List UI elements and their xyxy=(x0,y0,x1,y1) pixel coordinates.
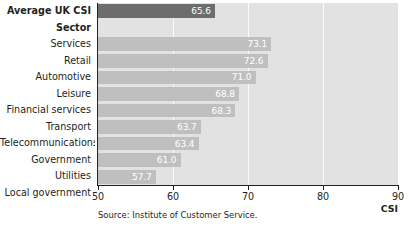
bar[interactable]: 63.4 xyxy=(98,137,199,151)
category-axis: Average UK CSISectorServicesRetailAutomo… xyxy=(0,3,95,185)
bar-row: 71.0 xyxy=(98,69,398,86)
source-note: Source: Institute of Customer Service. xyxy=(98,210,257,220)
category-label: Services xyxy=(0,36,95,53)
bar[interactable]: 57.7 xyxy=(98,170,156,184)
category-label: Retail xyxy=(0,53,95,70)
bar[interactable]: 68.8 xyxy=(98,87,239,101)
x-tick-mark xyxy=(98,186,99,190)
bar[interactable]: 61.0 xyxy=(98,153,181,167)
category-label: Leisure xyxy=(0,86,95,103)
x-tick-label: 70 xyxy=(242,191,254,202)
bar-row: 65.6 xyxy=(98,3,398,20)
bar-row: 68.8 xyxy=(98,86,398,103)
bar-value-label: 73.1 xyxy=(248,39,268,49)
bar-chart-figure: Average UK CSISectorServicesRetailAutomo… xyxy=(0,0,409,227)
bar-value-label: 65.6 xyxy=(191,6,211,16)
bar-value-label: 61.0 xyxy=(157,155,177,165)
x-tick-mark xyxy=(173,186,174,190)
x-tick-label: 50 xyxy=(92,191,104,202)
bar[interactable]: 73.1 xyxy=(98,37,271,51)
category-label: Local government xyxy=(0,185,95,202)
x-tick-label: 80 xyxy=(317,191,329,202)
bar-row: 61.0 xyxy=(98,152,398,169)
bar-row: 63.4 xyxy=(98,135,398,152)
x-tick-label: 60 xyxy=(167,191,179,202)
category-group-header: Sector xyxy=(0,20,95,37)
bar-value-label: 71.0 xyxy=(232,72,252,82)
category-label: Utilities xyxy=(0,168,95,185)
bar-row: 73.1 xyxy=(98,36,398,53)
category-label: Telecommunications xyxy=(0,135,95,152)
bar-value-label: 57.7 xyxy=(132,172,152,182)
x-tick-mark xyxy=(248,186,249,190)
bar-value-label: 68.3 xyxy=(212,106,232,116)
bar-row: 72.6 xyxy=(98,53,398,70)
bar-value-label: 72.6 xyxy=(244,56,264,66)
category-label: Automotive xyxy=(0,69,95,86)
bar-value-label: 63.7 xyxy=(177,122,197,132)
x-tick-mark xyxy=(398,186,399,190)
y-axis-line xyxy=(97,3,98,186)
bar-highlight[interactable]: 65.6 xyxy=(98,4,215,18)
bar[interactable]: 63.7 xyxy=(98,120,201,134)
x-axis-title: CSI xyxy=(381,203,398,214)
category-label: Transport xyxy=(0,119,95,136)
x-tick-label: 90 xyxy=(392,191,404,202)
bar-value-label: 63.4 xyxy=(175,139,195,149)
category-label: Average UK CSI xyxy=(0,3,95,20)
bar[interactable]: 68.3 xyxy=(98,104,235,118)
bar-row: 57.7 xyxy=(98,168,398,185)
bar-row: 63.7 xyxy=(98,119,398,136)
plot-area: 65.673.172.671.068.868.363.763.461.057.7… xyxy=(98,3,398,185)
bar-row: 68.3 xyxy=(98,102,398,119)
category-label: Financial services xyxy=(0,102,95,119)
bar[interactable]: 71.0 xyxy=(98,71,256,85)
bar[interactable]: 72.6 xyxy=(98,54,268,68)
category-label: Government xyxy=(0,152,95,169)
bar-row xyxy=(98,20,398,37)
x-tick-mark xyxy=(323,186,324,190)
bar-value-label: 68.8 xyxy=(215,89,235,99)
